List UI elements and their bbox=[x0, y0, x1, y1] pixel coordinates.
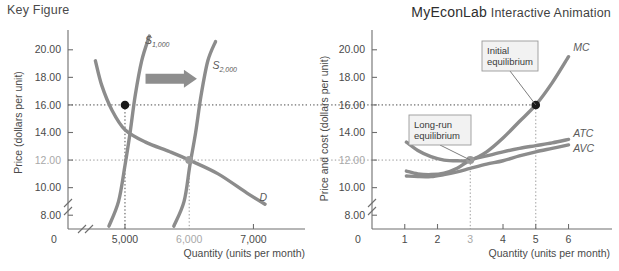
y-tick-label: 12.00 bbox=[339, 154, 365, 166]
initial-equilibrium-callout: Initialequilibrium bbox=[482, 41, 538, 105]
figure-root: Key Figure MyEconLab Interactive Animati… bbox=[0, 0, 619, 271]
origin-label: 0 bbox=[355, 233, 361, 245]
callout-leader-line bbox=[510, 71, 536, 105]
x-tick-label: 5,000 bbox=[112, 233, 138, 245]
y-tick-label: 20.00 bbox=[35, 43, 61, 55]
y-tick-label: 8.00 bbox=[345, 209, 366, 221]
curve-label-mc: MC bbox=[573, 41, 590, 53]
y-tick-label: 12.00 bbox=[35, 154, 61, 166]
market-supply-demand-chart: 8.0010.0012.0014.0016.0018.0020.005,0006… bbox=[0, 0, 310, 271]
supply-shift-arrow bbox=[146, 70, 197, 88]
point-new-equilibrium bbox=[185, 156, 193, 164]
market-chart-panel: 8.0010.0012.0014.0016.0018.0020.005,0006… bbox=[0, 0, 310, 271]
curve-s-2-000 bbox=[174, 42, 216, 227]
point-initial-equilibrium bbox=[531, 101, 540, 110]
y-tick-label: 14.00 bbox=[35, 126, 61, 138]
callouts: InitialequilibriumLong-runequilibrium bbox=[409, 41, 538, 160]
curve-label-s-2-000: S2,000 bbox=[212, 59, 237, 73]
x-axis-title: Quantity (units per month) bbox=[489, 247, 610, 259]
firm-chart-panel: 8.0010.0012.0014.0016.0018.0020.00123456… bbox=[310, 0, 619, 271]
callout-leader-line bbox=[440, 145, 470, 160]
y-tick-label: 10.00 bbox=[35, 181, 61, 193]
curve-label-s-1-000: S1,000 bbox=[145, 34, 170, 48]
x-tick-label: 1 bbox=[402, 233, 408, 245]
labels: 8.0010.0012.0014.0016.0018.0020.00123456… bbox=[318, 41, 610, 259]
y-tick-label: 18.00 bbox=[35, 71, 61, 83]
y-tick-label: 20.00 bbox=[339, 43, 365, 55]
x-tick-label: 7,000 bbox=[240, 233, 266, 245]
y-tick-label: 16.00 bbox=[35, 99, 61, 111]
y-tick-label: 8.00 bbox=[41, 209, 62, 221]
y-tick-label: 18.00 bbox=[339, 71, 365, 83]
x-tick-label: 6,000 bbox=[176, 233, 202, 245]
x-tick-label: 4 bbox=[500, 233, 506, 245]
y-tick-label: 10.00 bbox=[339, 181, 365, 193]
curves bbox=[95, 36, 265, 226]
curve-label-avc: AVC bbox=[572, 142, 594, 154]
x-tick-label: 6 bbox=[566, 233, 572, 245]
long-run-equilibrium-callout: Long-runequilibrium bbox=[409, 115, 471, 160]
y-tick-label: 14.00 bbox=[339, 126, 365, 138]
point-initial-equilibrium bbox=[121, 101, 130, 110]
curve-label-atc: ATC bbox=[572, 127, 594, 139]
origin-label: 0 bbox=[51, 233, 57, 245]
curve-label-d: D bbox=[259, 191, 267, 203]
y-axis-title: Price and cost (dollars per unit) bbox=[318, 56, 330, 201]
x-tick-label: 2 bbox=[435, 233, 441, 245]
x-axis-title: Quantity (units per month) bbox=[184, 247, 305, 259]
firm-cost-curves-chart: 8.0010.0012.0014.0016.0018.0020.00123456… bbox=[310, 0, 619, 271]
x-tick-label: 5 bbox=[533, 233, 539, 245]
y-tick-label: 16.00 bbox=[339, 99, 365, 111]
y-axis-title: Price (dollars per unit) bbox=[12, 71, 24, 174]
x-tick-label: 3 bbox=[467, 233, 473, 245]
